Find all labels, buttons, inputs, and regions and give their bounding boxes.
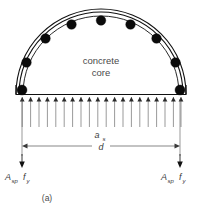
load-arrow [79,97,84,127]
force-arrow-left [19,154,25,168]
force-arrow-right [177,154,183,168]
load-arrow [179,97,184,127]
rebar-dot [17,85,27,95]
rebar-dot [175,85,185,95]
rebar-dot [152,34,162,44]
load-arrow [171,97,176,127]
core-label-line2: core [92,67,110,78]
force-arrow-left-head-icon [19,162,25,169]
load-arrow [121,97,126,127]
load-arrow [137,97,142,127]
force-label-left-sub: sp [12,178,19,184]
force-label-right: A sp f y [160,172,187,184]
load-arrow [146,97,151,127]
force-label-left-A: A [4,172,11,182]
load-arrow [37,97,42,127]
rebar-dot [41,34,51,44]
structural-diagram-svg: a s d concrete core A sp f y A sp f y [0,0,203,212]
load-arrow [154,97,159,127]
dimension-d-label: d [98,142,104,152]
load-arrow [70,97,75,127]
dimension-as-label: a [94,130,99,140]
force-label-left-f-sub: y [26,178,31,184]
rebar-dot [96,16,106,26]
core-label-line1: concrete [83,55,119,66]
load-arrow [163,97,168,127]
load-arrow [87,97,92,127]
rebar-dot [171,58,181,68]
load-arrow [45,97,50,127]
force-label-right-sub: sp [168,178,175,184]
force-arrow-right-head-icon [177,162,183,169]
load-arrow [28,97,33,127]
load-arrow [62,97,67,127]
rebar-dot [67,20,77,30]
load-arrow [112,97,117,127]
dimension-arrow-left-icon [22,144,28,149]
rebar-dot [126,20,136,30]
load-arrow [95,97,100,127]
load-arrow [129,97,134,127]
dimension-arrow-right-icon [175,144,181,149]
figure-container: a s d concrete core A sp f y A sp f y [0,0,203,212]
load-arrow [53,97,58,127]
rebar-dot [22,58,32,68]
figure-caption: (a) [42,193,53,203]
force-label-right-A: A [160,172,167,182]
force-label-right-f-sub: y [182,178,187,184]
distributed-load-group [20,97,184,127]
force-label-left: A sp f y [4,172,31,184]
load-arrow [104,97,109,127]
